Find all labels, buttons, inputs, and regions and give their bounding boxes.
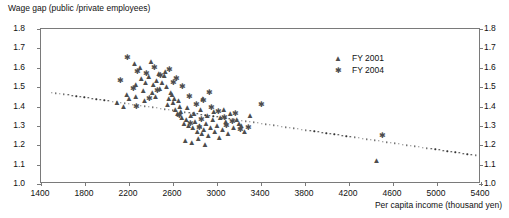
y-axis-tick (479, 87, 483, 88)
trendline-dot (71, 95, 72, 96)
data-point-star: ✱ (124, 54, 131, 62)
trendline-dot (160, 108, 161, 109)
x-axis-tick-label: 2600 (163, 189, 182, 198)
y-axis-tick-label: 1.8 (484, 24, 509, 33)
data-point-star: ✱ (379, 132, 386, 140)
trendline-dot (390, 142, 391, 143)
trendline-dot (75, 95, 76, 96)
x-axis-tick (261, 182, 262, 186)
trendline-dot (459, 152, 460, 153)
trendline-dot (55, 92, 56, 93)
trendline-dot (261, 123, 262, 124)
trendline-dot (463, 153, 464, 154)
trendline-dot (350, 136, 351, 137)
y-axis-tick-label: 1.4 (0, 102, 25, 111)
trendline-dot (346, 135, 347, 136)
trendline-dot (475, 155, 476, 156)
trendline-dot (305, 130, 306, 131)
x-axis-tick-label: 3800 (295, 189, 314, 198)
trendline-dot (128, 103, 129, 104)
triangle-marker-icon: ▲ (330, 54, 346, 63)
data-point-star: ✱ (133, 103, 140, 111)
trendline-dot (80, 96, 81, 97)
trendline-dot (443, 150, 444, 151)
trendline-dot (265, 124, 266, 125)
y-axis-tick-label: 1.2 (0, 140, 25, 149)
data-point-star: ✱ (146, 95, 153, 103)
trendline-dot (59, 93, 60, 94)
y-axis-tick-label: 1.1 (0, 160, 25, 169)
y-axis-tick-label: 1.0 (484, 179, 509, 188)
star-marker-icon: ✱ (330, 66, 346, 75)
trendline-dot (322, 132, 323, 133)
data-point-star: ✱ (193, 101, 200, 109)
trendline-dot (144, 106, 145, 107)
trendline-dot (326, 133, 327, 134)
trendline-dot (471, 154, 472, 155)
y-axis-tick-label: 1.8 (0, 24, 25, 33)
x-axis-tick-label: 2200 (119, 189, 138, 198)
data-point-triangle: ▲ (120, 103, 128, 111)
trendline-dot (330, 133, 331, 134)
y-axis-tick (479, 68, 483, 69)
x-axis-tick-label: 1400 (31, 189, 50, 198)
trendline-dot (334, 134, 335, 135)
trendline-dot (273, 125, 274, 126)
y-axis-tick (37, 145, 41, 146)
trendline-dot (293, 128, 294, 129)
trendline-dot (414, 146, 415, 147)
data-point-star: ✱ (170, 79, 177, 87)
x-axis-tick (481, 182, 482, 186)
x-axis-tick (41, 182, 42, 186)
legend-label: FY 2001 (352, 53, 384, 63)
x-axis-tick (217, 182, 218, 186)
trendline-dot (338, 134, 339, 135)
trendline-dot (63, 94, 64, 95)
chart-legend: ▲ FY 2001 ✱ FY 2004 (330, 52, 384, 76)
trendline-dot (398, 143, 399, 144)
x-axis-title: Per capita income (thousand yen) (375, 200, 502, 210)
data-point-star: ✱ (157, 72, 164, 80)
x-axis-tick (305, 182, 306, 186)
trendline-dot (253, 122, 254, 123)
x-axis-tick-label: 4200 (339, 189, 358, 198)
trendline-dot (84, 97, 85, 98)
x-axis-tick-label: 3400 (251, 189, 270, 198)
scatter-chart: Wage gap (public /private employees) Per… (0, 0, 509, 218)
y-axis-tick (479, 165, 483, 166)
x-axis-tick-label: 1800 (75, 189, 94, 198)
y-axis-tick (479, 126, 483, 127)
y-axis-title: Wage gap (public /private employees) (8, 3, 150, 13)
trendline-dot (382, 141, 383, 142)
data-point-triangle: ▲ (215, 134, 223, 142)
x-axis-tick (129, 182, 130, 186)
trendline-dot (354, 137, 355, 138)
data-point-star: ✱ (187, 120, 194, 128)
data-point-star: ✱ (245, 124, 252, 132)
data-point-star: ✱ (143, 70, 150, 78)
trendline-dot (297, 128, 298, 129)
y-axis-tick-label: 1.4 (484, 102, 509, 111)
data-point-triangle: ▲ (373, 157, 381, 165)
data-point-star: ✱ (130, 85, 137, 93)
trendline-dot (438, 149, 439, 150)
trendline-dot (285, 127, 286, 128)
x-axis-tick (85, 182, 86, 186)
y-axis-tick-label: 1.5 (484, 82, 509, 91)
trendline-dot (156, 107, 157, 108)
y-axis-tick (37, 87, 41, 88)
legend-item-fy2001: ▲ FY 2001 (330, 52, 384, 64)
y-axis-tick (479, 145, 483, 146)
data-point-triangle: ▲ (246, 112, 254, 120)
trendline-dot (67, 94, 68, 95)
trendline-dot (96, 98, 97, 99)
data-point-star: ✱ (258, 101, 265, 109)
trendline-dot (317, 131, 318, 132)
y-axis-tick-label: 1.2 (484, 140, 509, 149)
plot-area: ▲▲▲▲▲▲▲▲▲▲▲▲▲▲▲▲▲▲▲▲▲▲▲▲▲▲▲▲▲▲▲▲▲▲▲▲▲▲▲▲… (40, 28, 480, 183)
x-axis-tick (393, 182, 394, 186)
trendline-dot (467, 153, 468, 154)
legend-item-fy2004: ✱ FY 2004 (330, 64, 384, 76)
y-axis-tick (479, 29, 483, 30)
trendline-dot (289, 127, 290, 128)
